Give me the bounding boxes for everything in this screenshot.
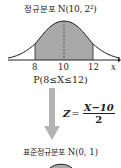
formula-denominator: 2 (95, 114, 102, 125)
standard-normal-curve-peek (50, 162, 72, 168)
standardization-formula: Z = X−10 2 (63, 102, 115, 125)
probability-expression: P(8≤X≤12) (0, 74, 121, 85)
formula-fraction: X−10 2 (83, 102, 115, 125)
standard-normal-title: 표준정규분포 N(0, 1) (0, 146, 121, 157)
formula-lhs: Z (63, 108, 70, 119)
tick-12: 12 (88, 62, 99, 72)
tick-8: 8 (32, 62, 37, 72)
tick-10: 10 (58, 62, 69, 72)
formula-equals: = (71, 108, 79, 119)
bottom-title-math: N(0, 1) (68, 147, 98, 157)
down-arrow-icon (44, 88, 60, 143)
title-korean: 정규분포 (24, 4, 55, 14)
bottom-title-korean: 표준정규분포 (23, 148, 65, 157)
normal-distribution-title: 정규분포 N(10, 2²) (0, 2, 121, 14)
normal-curve-graph (0, 14, 121, 64)
formula-numerator: X−10 (83, 102, 115, 114)
title-math: N(10, 2²) (58, 4, 97, 14)
x-axis-label: x (111, 62, 116, 72)
